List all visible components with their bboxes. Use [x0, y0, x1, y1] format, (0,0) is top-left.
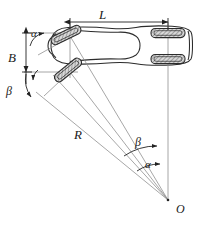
- radius-line-R: [53, 75, 168, 200]
- label-radius-R: R: [74, 128, 82, 141]
- label-angle-alpha-bottom: α: [145, 159, 151, 170]
- angle-arc-beta-left: [25, 70, 38, 97]
- dimension-B: [22, 33, 32, 84]
- label-angle-beta-bottom: β: [135, 136, 141, 148]
- diagram-canvas: L B R O α β α β: [0, 0, 207, 226]
- rear-inner-wheel: [151, 54, 185, 63]
- construction-lines: [24, 22, 168, 200]
- label-turn-center-O: O: [176, 203, 185, 215]
- label-track-B: B: [8, 51, 16, 64]
- label-angle-beta-left: β: [6, 85, 12, 97]
- radius-line-outer-extension: [36, 92, 168, 200]
- label-angle-alpha-top: α: [31, 28, 37, 39]
- radius-line-front-inner: [70, 72, 168, 200]
- label-wheelbase-L: L: [99, 8, 106, 21]
- turn-center-point: [167, 199, 170, 202]
